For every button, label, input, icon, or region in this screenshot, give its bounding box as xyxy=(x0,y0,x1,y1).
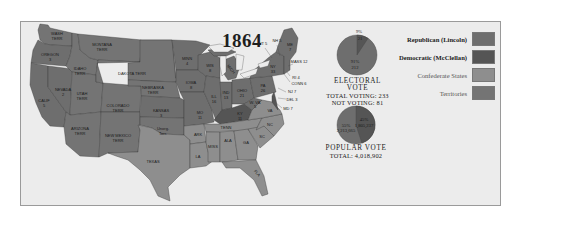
label-ala: ALA xyxy=(224,138,232,143)
legend-item-territories: Territories xyxy=(395,85,495,101)
label-texas: TEXAS xyxy=(146,159,159,164)
label-ga: GA xyxy=(243,140,249,145)
label-la: LA xyxy=(196,154,201,159)
label-arizona-2: TERR xyxy=(75,131,86,136)
electoral-dem-pct: 9% xyxy=(356,29,362,34)
label-pa-2: 26 xyxy=(261,88,266,93)
legend-swatch-confederate xyxy=(472,68,495,82)
legend-item-republican: Republican (Lincoln) xyxy=(395,31,495,47)
lake-huron xyxy=(236,54,244,70)
label-miss: MISS xyxy=(208,144,218,149)
lake-michigan xyxy=(220,56,226,76)
label-montana-2: TERR xyxy=(97,47,108,52)
label-ark: ARK xyxy=(194,132,203,137)
electoral-total-voting: TOTAL VOTING: 233 xyxy=(325,92,390,99)
electoral-dem-votes: 21 xyxy=(358,36,363,41)
electoral-rep-pct: 91% xyxy=(351,59,360,64)
label-ind-2: 13 xyxy=(224,95,229,100)
region-fla xyxy=(222,160,268,196)
legend-swatch-territories xyxy=(472,86,495,100)
label-va: VA xyxy=(267,108,272,113)
map-title: 1864 xyxy=(222,30,262,52)
callout-conn: CONN 6 xyxy=(291,81,307,86)
label-ill-2: 16 xyxy=(212,99,217,104)
callout-mass: MASS 12 xyxy=(291,59,309,64)
legend-item-democratic: Democratic (McClellan) xyxy=(395,49,495,65)
legend-label-republican: Republican (Lincoln) xyxy=(407,36,467,43)
label-utah-2: TERR xyxy=(77,96,88,101)
electoral-rep-votes: 212 xyxy=(352,65,360,70)
electoral-pie: 9% 21 91% 212 xyxy=(337,29,377,75)
popular-caption: POPULAR VOTE TOTAL: 4,018,902 xyxy=(322,145,390,159)
popular-dem-pct: 45% xyxy=(360,117,369,122)
callout-del: DEL 3 xyxy=(287,97,299,102)
legend-swatch-republican xyxy=(472,32,495,46)
callout-nh: NH 5 xyxy=(272,38,282,43)
label-nc: NC xyxy=(267,122,273,127)
label-unorg-2: Terr. xyxy=(159,131,167,136)
label-idaho-2: TERR xyxy=(75,71,86,76)
callout-nj: NJ 7 xyxy=(288,89,297,94)
label-tenn: TENN xyxy=(221,125,232,130)
label-ohio-2: 21 xyxy=(240,93,245,98)
legend-item-confederate: Confederate States xyxy=(395,67,495,83)
label-newmexico-2: TERR xyxy=(113,138,124,143)
popular-total: TOTAL: 4,018,902 xyxy=(322,152,390,159)
legend-label-democratic: Democratic (McClellan) xyxy=(399,54,467,61)
label-wash-2: TERR xyxy=(52,36,63,41)
legend-label-confederate: Confederate States xyxy=(417,72,467,79)
callout-md: MD 7 xyxy=(283,106,293,111)
label-ny-2: 33 xyxy=(271,69,276,74)
electoral-caption-head: ELECTORAL VOTE xyxy=(325,78,390,92)
electoral-caption: ELECTORAL VOTE TOTAL VOTING: 233 NOT VOT… xyxy=(325,78,390,106)
legend-swatch-democratic xyxy=(472,50,495,64)
label-nebraska-2: TERR xyxy=(148,90,159,95)
electoral-not-voting: NOT VOTING: 81 xyxy=(325,99,390,106)
legend: Republican (Lincoln) Democratic (McClell… xyxy=(395,31,495,103)
label-colorado-2: TERR xyxy=(113,108,124,113)
popular-pie: 55% 2,213,665 45% 1,805,237 xyxy=(337,106,375,144)
label-dakota: DAKOTA TERR xyxy=(118,71,146,76)
label-sc: SC xyxy=(259,134,265,139)
callout-ri: RI 4 xyxy=(292,75,300,80)
popular-caption-head: POPULAR VOTE xyxy=(322,145,390,152)
legend-label-territories: Territories xyxy=(440,90,467,97)
